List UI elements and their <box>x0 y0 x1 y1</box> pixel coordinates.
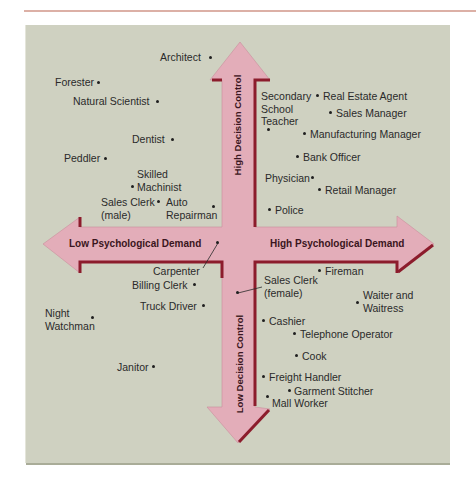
occupation-label-manufacturing-manager: Manufacturing Manager <box>310 128 421 141</box>
occupation-label-cashier: Cashier <box>269 315 305 328</box>
occupation-label-telephone-operator: Telephone Operator <box>300 328 393 341</box>
occupation-label-police: Police <box>275 204 304 217</box>
occupation-label-night-watchman: NightWatchman <box>45 307 95 332</box>
occupation-label-mall-worker: Mall Worker <box>272 397 328 410</box>
occupation-label-peddler: Peddler <box>64 152 100 165</box>
occupation-label-sales-clerk-female: Sales Clerk(female) <box>264 274 318 299</box>
occupation-label-billing-clerk: Billing Clerk <box>132 279 187 292</box>
occupation-label-retail-manager: Retail Manager <box>325 184 396 197</box>
occupation-label-physician: Physician <box>265 172 310 185</box>
occupation-label-skilled-machinist: SkilledMachinist <box>137 168 181 193</box>
axis-label-low-psychological-demand: Low Psychological Demand <box>69 238 201 250</box>
occupation-label-auto-repairman: AutoRepairman <box>166 196 217 221</box>
occupation-label-architect: Architect <box>160 51 201 64</box>
axis-label-low-decision-control: Low Decision Control <box>234 299 246 429</box>
axis-label-high-decision-control: High Decision Control <box>232 60 244 190</box>
occupation-label-carpenter: Carpenter <box>153 265 200 278</box>
occupation-label-natural-scientist: Natural Scientist <box>73 95 149 108</box>
occupation-label-forester: Forester <box>55 76 94 89</box>
occupation-label-secondary-school-teacher: SecondarySchoolTeacher <box>261 90 311 128</box>
occupation-label-waiter-and-waitress: Waiter andWaitress <box>363 289 413 314</box>
occupation-label-sales-manager: Sales Manager <box>336 107 407 120</box>
occupation-label-fireman: Fireman <box>325 265 364 278</box>
axis-label-high-psychological-demand: High Psychological Demand <box>270 238 404 250</box>
occupation-label-janitor: Janitor <box>117 361 149 374</box>
occupation-label-truck-driver: Truck Driver <box>140 300 197 313</box>
occupation-label-cook: Cook <box>302 350 327 363</box>
occupation-label-garment-stitcher: Garment Stitcher <box>294 385 373 398</box>
occupation-label-real-estate-agent: Real Estate Agent <box>323 90 407 103</box>
occupation-label-sales-clerk-male: Sales Clerk(male) <box>101 196 155 221</box>
occupation-label-bank-officer: Bank Officer <box>303 151 361 164</box>
occupation-label-freight-handler: Freight Handler <box>269 371 341 384</box>
occupation-label-dentist: Dentist <box>132 133 165 146</box>
